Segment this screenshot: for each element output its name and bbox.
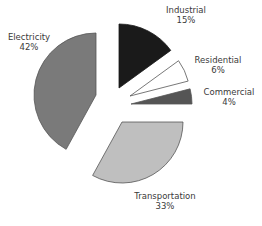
slice-name: Industrial [166, 5, 206, 15]
slice-value: 4% [204, 97, 255, 107]
slice-value: 33% [134, 201, 195, 211]
slice-label-electricity: Electricity42% [8, 32, 50, 52]
slice-label-residential: Residential6% [195, 55, 242, 75]
slice-label-commercial: Commercial4% [204, 87, 255, 107]
slice-name: Electricity [8, 32, 50, 42]
slice-value: 15% [166, 15, 206, 25]
slice-name: Residential [195, 55, 242, 65]
slice-value: 6% [195, 65, 242, 75]
slice-value: 42% [8, 42, 50, 52]
slice-name: Commercial [204, 87, 255, 97]
slice-label-industrial: Industrial15% [166, 5, 206, 25]
pie-slice-transportation [93, 122, 183, 183]
slice-label-transportation: Transportation33% [134, 191, 195, 211]
slice-name: Transportation [134, 191, 195, 201]
